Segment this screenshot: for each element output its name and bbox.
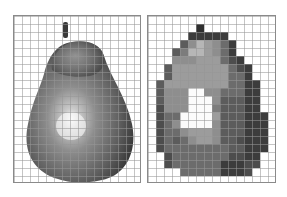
pixel-cell xyxy=(180,88,188,96)
pixel-cell xyxy=(212,144,220,152)
pixel-cell xyxy=(148,80,156,88)
pixel-cell xyxy=(268,64,276,72)
pixel-cell xyxy=(156,176,164,183)
pixel-cell xyxy=(156,168,164,176)
pixel-cell xyxy=(204,32,212,40)
pixel-cell xyxy=(204,144,212,152)
pixel-cell xyxy=(156,88,164,96)
pixel-cell xyxy=(188,176,196,183)
pixel-cell xyxy=(164,40,172,48)
pixel-cell xyxy=(196,176,204,183)
pixel-cell xyxy=(204,176,212,183)
pixel-cell xyxy=(220,56,228,64)
pixel-cell xyxy=(196,80,204,88)
pixel-cell xyxy=(204,88,212,96)
pixel-cell xyxy=(180,176,188,183)
pixel-cell xyxy=(204,160,212,168)
pixel-cell xyxy=(148,168,156,176)
pixel-cell xyxy=(252,112,260,120)
pixel-cell xyxy=(220,24,228,32)
pixel-cell xyxy=(236,64,244,72)
pixel-cell xyxy=(260,56,268,64)
pixel-cell xyxy=(164,64,172,72)
pixel-cell xyxy=(220,144,228,152)
pixel-cell xyxy=(204,72,212,80)
pixel-cell xyxy=(244,48,252,56)
pixel-cell xyxy=(252,40,260,48)
pixel-cell xyxy=(180,144,188,152)
pixel-cell xyxy=(156,160,164,168)
pear-pixel-panel xyxy=(147,15,276,183)
pixel-cell xyxy=(204,16,212,24)
pixel-cell xyxy=(148,16,156,24)
pixel-cell xyxy=(164,136,172,144)
pixel-cell xyxy=(236,112,244,120)
pixel-cell xyxy=(268,56,276,64)
pixel-cell xyxy=(244,40,252,48)
pixel-cell xyxy=(244,152,252,160)
pixel-cell xyxy=(172,168,180,176)
pixel-cell xyxy=(228,24,236,32)
pixel-cell xyxy=(188,128,196,136)
stem-icon xyxy=(63,22,68,38)
pixel-cell xyxy=(180,152,188,160)
pixel-cell xyxy=(148,104,156,112)
pixel-cell xyxy=(220,136,228,144)
pixel-cell xyxy=(268,104,276,112)
pixel-cell xyxy=(244,16,252,24)
pixel-cell xyxy=(188,120,196,128)
pixel-cell xyxy=(196,72,204,80)
pixel-cell xyxy=(156,48,164,56)
pixel-cell xyxy=(220,32,228,40)
pixel-cell xyxy=(156,64,164,72)
pixel-cell xyxy=(212,128,220,136)
pear-photo-image xyxy=(14,16,141,183)
pixel-cell xyxy=(244,56,252,64)
pixel-cell xyxy=(220,128,228,136)
pixel-cell xyxy=(260,24,268,32)
pixel-cell xyxy=(268,16,276,24)
pixel-cell xyxy=(156,104,164,112)
pixel-cell xyxy=(212,88,220,96)
pixel-cell xyxy=(204,48,212,56)
pixel-cell xyxy=(220,176,228,183)
pixel-cell xyxy=(252,24,260,32)
pixel-cell xyxy=(196,24,204,32)
pixel-cell xyxy=(188,48,196,56)
pixel-cell xyxy=(180,80,188,88)
pixel-cell xyxy=(156,72,164,80)
pixel-cell xyxy=(164,104,172,112)
pixel-cell xyxy=(268,152,276,160)
pixel-cell xyxy=(268,72,276,80)
pixel-cell xyxy=(228,88,236,96)
pixel-cell xyxy=(212,56,220,64)
pixel-cell xyxy=(252,120,260,128)
pixel-cell xyxy=(260,112,268,120)
pixel-cell xyxy=(244,80,252,88)
pixel-cell xyxy=(236,32,244,40)
pixel-cell xyxy=(180,40,188,48)
pixel-cell xyxy=(228,80,236,88)
pixel-cell xyxy=(204,64,212,72)
pixel-cell xyxy=(212,48,220,56)
pixel-cell xyxy=(236,80,244,88)
pixel-cell xyxy=(172,136,180,144)
pixel-cell xyxy=(180,120,188,128)
pixel-cell xyxy=(260,160,268,168)
pixel-cell xyxy=(228,144,236,152)
pixel-cell xyxy=(204,128,212,136)
pixel-cell xyxy=(220,96,228,104)
pixel-cell xyxy=(148,24,156,32)
pixel-cell xyxy=(260,32,268,40)
pixel-cell xyxy=(268,160,276,168)
pixel-cell xyxy=(156,144,164,152)
pixel-cell xyxy=(148,48,156,56)
pixel-cell xyxy=(260,168,268,176)
pixel-cell xyxy=(180,136,188,144)
pixel-cell xyxy=(172,120,180,128)
pixel-cell xyxy=(164,176,172,183)
pixel-cell xyxy=(260,40,268,48)
pixel-cell xyxy=(188,112,196,120)
pixel-cell xyxy=(164,144,172,152)
pixel-cell xyxy=(220,88,228,96)
